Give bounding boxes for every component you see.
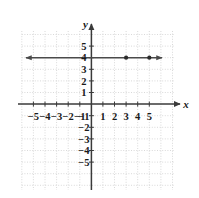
y-tick-label--2: −2 bbox=[78, 122, 89, 133]
x-tick-label--3: −3 bbox=[51, 111, 62, 122]
x-tick-label-2: 2 bbox=[112, 111, 117, 122]
plotted-point-3-4 bbox=[124, 56, 128, 60]
y-tick-label--3: −3 bbox=[78, 134, 89, 145]
y-tick-label-5: 5 bbox=[81, 41, 86, 52]
figure-background bbox=[0, 0, 199, 198]
y-tick-label-1: 1 bbox=[81, 87, 86, 98]
y-axis-label: y bbox=[81, 18, 88, 30]
y-tick-label--1: −1 bbox=[78, 111, 89, 122]
x-tick-label-5: 5 bbox=[147, 111, 152, 122]
plotted-point-5-4 bbox=[147, 56, 151, 60]
x-axis-label: x bbox=[182, 98, 189, 110]
y-tick-label-3: 3 bbox=[81, 64, 86, 75]
y-tick-label--4: −4 bbox=[78, 145, 90, 156]
coordinate-plane-figure: −5 −4 −3 −2 −1 1 2 3 4 5 5 4 3 2 1 −1 −2… bbox=[0, 0, 199, 198]
x-tick-label--5: −5 bbox=[28, 111, 39, 122]
y-tick-label-4: 4 bbox=[81, 52, 87, 63]
x-tick-label-3: 3 bbox=[123, 111, 128, 122]
y-tick-label-2: 2 bbox=[81, 76, 86, 87]
y-tick-label--5: −5 bbox=[78, 157, 89, 168]
x-tick-label--2: −2 bbox=[63, 111, 74, 122]
graph-canvas: −5 −4 −3 −2 −1 1 2 3 4 5 5 4 3 2 1 −1 −2… bbox=[0, 0, 199, 198]
x-tick-label-4: 4 bbox=[135, 111, 141, 122]
x-tick-label-1: 1 bbox=[100, 111, 105, 122]
x-tick-label--4: −4 bbox=[39, 111, 51, 122]
